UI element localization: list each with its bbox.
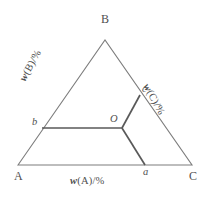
point-label-b: b [32,117,37,128]
axis-rest-A: (A)/% [77,175,104,186]
vertex-label-B: B [101,13,109,25]
point-label-O: O [110,114,118,125]
vertex-label-C: C [189,170,197,182]
ternary-diagram: A B C O a b c w(A)/% w(B)/% w(C)/% [0,0,212,199]
ternary-diagram-canvas [0,0,212,199]
triangle-outline [18,40,192,165]
vertex-label-A: A [14,170,23,182]
construction-line-O-a [122,128,145,165]
point-label-a: a [143,167,148,178]
axis-label-bottom: w(A)/% [70,176,104,187]
construction-line-O-c [122,95,140,128]
